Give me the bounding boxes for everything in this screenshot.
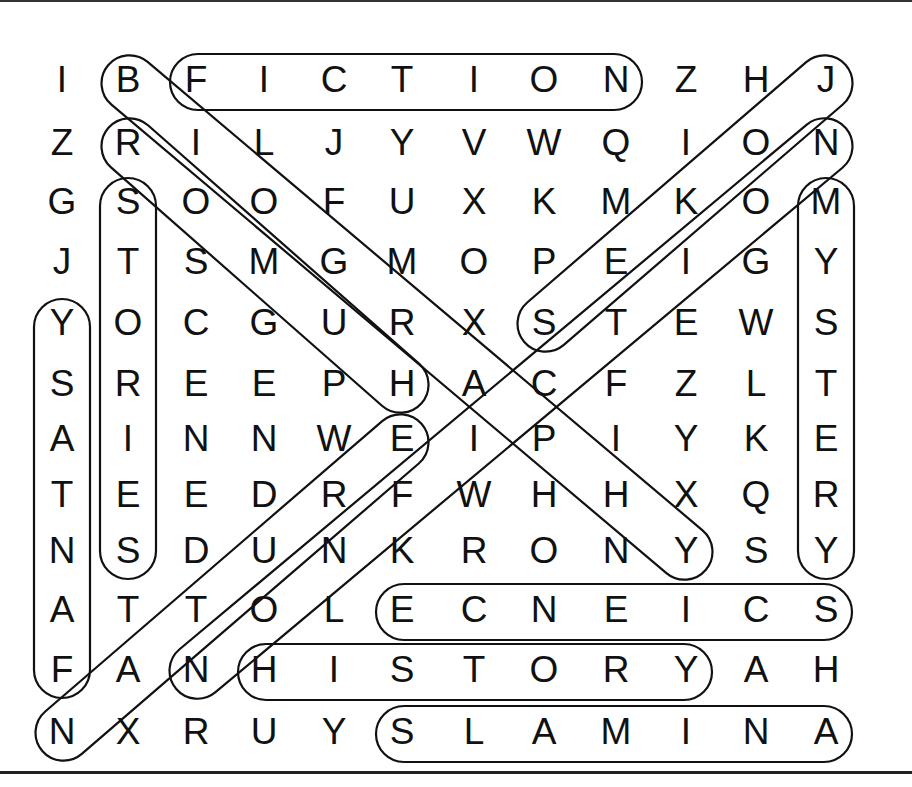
grid-cell[interactable]: J (37, 237, 87, 287)
grid-cell[interactable]: X (661, 470, 711, 520)
grid-cell[interactable]: K (377, 526, 427, 576)
grid-cell[interactable]: O (239, 177, 289, 227)
grid-cell[interactable]: G (731, 237, 781, 287)
grid-cell[interactable]: F (591, 359, 641, 409)
grid-cell[interactable]: E (801, 414, 851, 464)
grid-cell[interactable]: I (239, 55, 289, 105)
grid-cell[interactable]: W (731, 298, 781, 348)
grid-cell[interactable]: W (449, 470, 499, 520)
grid-cell[interactable]: L (731, 359, 781, 409)
grid-cell[interactable]: R (449, 526, 499, 576)
grid-cell[interactable]: I (661, 118, 711, 168)
grid-cell[interactable]: A (37, 585, 87, 635)
grid-cell[interactable]: S (377, 707, 427, 757)
grid-cell[interactable]: Z (37, 118, 87, 168)
grid-cell[interactable]: H (377, 359, 427, 409)
grid-cell[interactable]: A (731, 645, 781, 695)
grid-cell[interactable]: J (309, 118, 359, 168)
grid-cell[interactable]: A (519, 707, 569, 757)
grid-cell[interactable]: T (449, 645, 499, 695)
grid-cell[interactable]: A (801, 707, 851, 757)
grid-cell[interactable]: W (519, 118, 569, 168)
grid-cell[interactable]: S (801, 585, 851, 635)
grid-cell[interactable]: R (591, 645, 641, 695)
grid-cell[interactable]: S (731, 526, 781, 576)
grid-cell[interactable]: S (377, 645, 427, 695)
grid-cell[interactable]: N (309, 526, 359, 576)
grid-cell[interactable]: C (731, 585, 781, 635)
grid-cell[interactable]: T (171, 585, 221, 635)
grid-cell[interactable]: N (239, 414, 289, 464)
grid-cell[interactable]: P (519, 237, 569, 287)
grid-cell[interactable]: M (591, 177, 641, 227)
grid-cell[interactable]: Y (661, 414, 711, 464)
grid-cell[interactable]: O (519, 55, 569, 105)
grid-cell[interactable]: A (449, 359, 499, 409)
grid-cell[interactable]: N (171, 645, 221, 695)
grid-cell[interactable]: O (171, 177, 221, 227)
grid-cell[interactable]: T (37, 470, 87, 520)
grid-cell[interactable]: I (37, 55, 87, 105)
grid-cell[interactable]: O (449, 237, 499, 287)
grid-cell[interactable]: X (103, 707, 153, 757)
grid-cell[interactable]: R (171, 707, 221, 757)
grid-cell[interactable]: Y (377, 118, 427, 168)
grid-cell[interactable]: L (449, 707, 499, 757)
grid-cell[interactable]: O (519, 526, 569, 576)
grid-cell[interactable]: W (309, 414, 359, 464)
grid-cell[interactable]: H (731, 55, 781, 105)
grid-cell[interactable]: S (103, 526, 153, 576)
grid-cell[interactable]: T (377, 55, 427, 105)
grid-cell[interactable]: L (309, 585, 359, 635)
grid-cell[interactable]: I (309, 645, 359, 695)
grid-cell[interactable]: I (661, 237, 711, 287)
grid-cell[interactable]: V (449, 118, 499, 168)
grid-cell[interactable]: P (519, 414, 569, 464)
grid-cell[interactable]: E (591, 585, 641, 635)
grid-cell[interactable]: R (801, 470, 851, 520)
grid-cell[interactable]: M (801, 177, 851, 227)
grid-cell[interactable]: E (171, 470, 221, 520)
grid-cell[interactable]: N (519, 585, 569, 635)
grid-cell[interactable]: O (519, 645, 569, 695)
grid-cell[interactable]: Z (661, 55, 711, 105)
grid-cell[interactable]: U (239, 707, 289, 757)
grid-cell[interactable]: E (591, 237, 641, 287)
grid-cell[interactable]: E (661, 298, 711, 348)
grid-cell[interactable]: U (309, 298, 359, 348)
grid-cell[interactable]: G (309, 237, 359, 287)
grid-cell[interactable]: C (171, 298, 221, 348)
grid-cell[interactable]: A (103, 645, 153, 695)
grid-cell[interactable]: R (103, 359, 153, 409)
grid-cell[interactable]: X (449, 298, 499, 348)
grid-cell[interactable]: S (103, 177, 153, 227)
grid-cell[interactable]: I (661, 585, 711, 635)
grid-cell[interactable]: M (591, 707, 641, 757)
grid-cell[interactable]: Y (661, 645, 711, 695)
grid-cell[interactable]: I (449, 414, 499, 464)
grid-cell[interactable]: F (37, 645, 87, 695)
grid-cell[interactable]: N (37, 707, 87, 757)
grid-cell[interactable]: C (309, 55, 359, 105)
grid-cell[interactable]: U (377, 177, 427, 227)
grid-cell[interactable]: Y (37, 298, 87, 348)
grid-cell[interactable]: S (801, 298, 851, 348)
grid-cell[interactable]: A (37, 414, 87, 464)
grid-cell[interactable]: O (103, 298, 153, 348)
grid-cell[interactable]: H (591, 470, 641, 520)
grid-cell[interactable]: E (377, 414, 427, 464)
grid-cell[interactable]: D (239, 470, 289, 520)
grid-cell[interactable]: K (661, 177, 711, 227)
grid-cell[interactable]: I (661, 707, 711, 757)
grid-cell[interactable]: M (377, 237, 427, 287)
grid-cell[interactable]: Y (309, 707, 359, 757)
grid-cell[interactable]: T (103, 237, 153, 287)
grid-cell[interactable]: Y (661, 526, 711, 576)
grid-cell[interactable]: P (309, 359, 359, 409)
grid-cell[interactable]: Y (801, 526, 851, 576)
grid-cell[interactable]: Q (591, 118, 641, 168)
grid-cell[interactable]: T (801, 359, 851, 409)
grid-cell[interactable]: H (239, 645, 289, 695)
grid-cell[interactable]: T (103, 585, 153, 635)
grid-cell[interactable]: J (801, 55, 851, 105)
